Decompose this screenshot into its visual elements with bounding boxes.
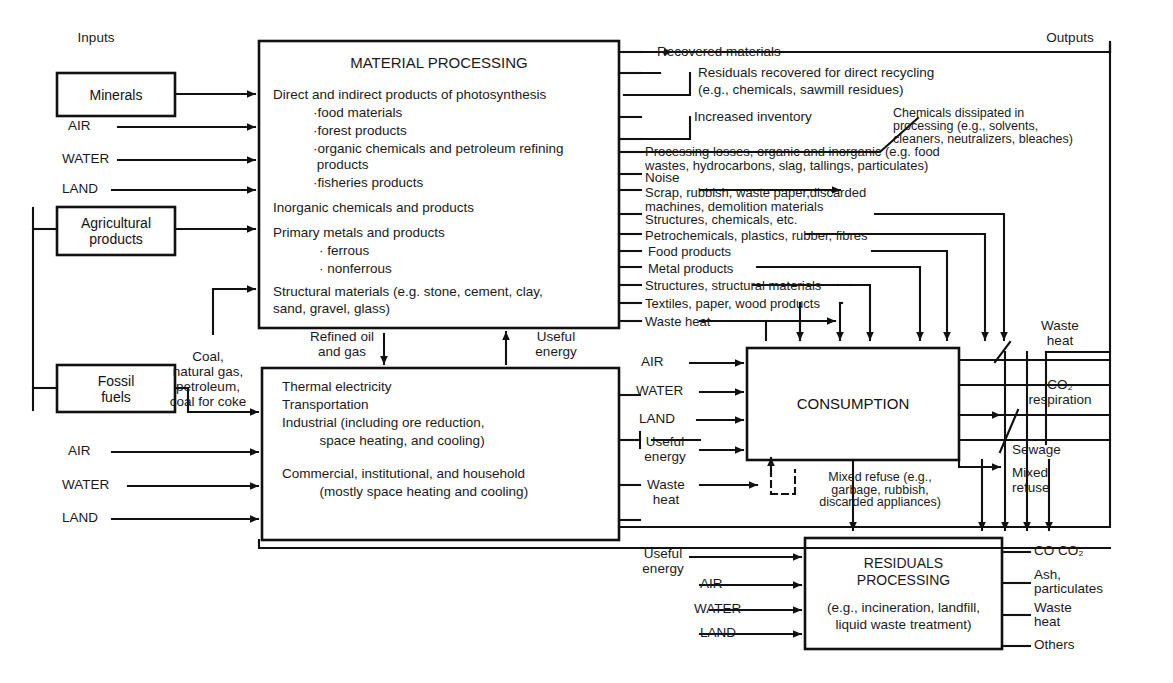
input-land-top: LAND bbox=[62, 182, 98, 197]
consumption-input-land: LAND bbox=[639, 412, 675, 427]
output-food-products: Food products bbox=[648, 245, 731, 259]
consumption-input-air: AIR bbox=[641, 355, 664, 370]
box-minerals[interactable]: Minerals bbox=[57, 73, 175, 116]
outputs-title: Outputs bbox=[1020, 31, 1120, 46]
consumption-output-sewage: Sewage bbox=[1012, 443, 1061, 458]
output-structures-chemicals: Structures, chemicals, etc. bbox=[645, 213, 797, 227]
mp-line-8: · ferrous bbox=[319, 244, 369, 259]
mixed-refuse-note: Mixed refuse (e.g., garbage, rubbish, di… bbox=[800, 471, 960, 509]
output-scrap-1: Scrap, rubbish, waste paper,discarded bbox=[645, 186, 866, 200]
output-increased-inventory: Increased inventory bbox=[694, 110, 812, 125]
consumption-input-useful-energy: Useful energy bbox=[632, 434, 698, 464]
chemicals-dissipated-note: Chemicals dissipated in processing (e.g.… bbox=[893, 107, 1073, 146]
residuals-input-air: AIR bbox=[700, 577, 723, 592]
energy-line-0: Thermal electricity bbox=[282, 380, 392, 395]
energy-line-6: (mostly space heating and cooling) bbox=[282, 485, 528, 500]
residuals-output-waste-heat: Waste heat bbox=[1034, 601, 1072, 629]
output-metal-products: Metal products bbox=[648, 262, 733, 276]
residuals-input-land: LAND bbox=[700, 626, 736, 641]
output-residuals-recycling-1: Residuals recovered for direct recycling bbox=[698, 66, 934, 81]
input-water-bottom: WATER bbox=[62, 478, 109, 493]
useful-energy-up-label: Useful energy bbox=[516, 329, 596, 359]
mp-line-2: ·forest products bbox=[313, 124, 407, 139]
output-processing-losses-1: Processing losses, organic and inorganic… bbox=[645, 145, 940, 159]
mp-line-1: ·food materials bbox=[313, 106, 402, 121]
energy-line-2: Industrial (including ore reduction, bbox=[282, 416, 485, 431]
material-processing-header: MATERIAL PROCESSING bbox=[279, 56, 599, 71]
consumption-input-water: WATER bbox=[636, 384, 683, 399]
consumption-input-waste-heat: Waste heat bbox=[634, 477, 698, 507]
residuals-output-co-co2: CO CO₂ bbox=[1034, 544, 1084, 559]
mp-line-10: Structural materials (e.g. stone, cement… bbox=[273, 285, 543, 300]
residuals-header-2: PROCESSING bbox=[805, 573, 1002, 588]
fuel-transport-label: Coal, natural gas, petroleum, coal for c… bbox=[148, 349, 268, 409]
inputs-title: Inputs bbox=[46, 31, 146, 46]
mp-line-0: Direct and indirect products of photosyn… bbox=[273, 88, 546, 103]
energy-line-1: Transportation bbox=[282, 398, 369, 413]
output-petrochemicals: Petrochemicals, plastics, rubber, fibres bbox=[645, 229, 868, 243]
residuals-header-1: RESIDUALS bbox=[805, 556, 1002, 571]
input-water-top: WATER bbox=[62, 152, 109, 167]
box-agricultural-products[interactable]: Agricultural products bbox=[57, 207, 175, 255]
output-processing-losses-2: wastes, hydrocarbons, slag, tallings, pa… bbox=[645, 159, 928, 173]
output-residuals-recycling-2: (e.g., chemicals, sawmill residues) bbox=[698, 83, 904, 98]
input-air-top: AIR bbox=[68, 119, 91, 134]
residuals-input-water: WATER bbox=[694, 602, 741, 617]
output-structures-structural: Structures, structural materials bbox=[645, 279, 821, 293]
mp-line-9: · nonferrous bbox=[319, 262, 392, 277]
input-land-bottom: LAND bbox=[62, 511, 98, 526]
diagram-canvas: Inputs Outputs Minerals Agricultural pro… bbox=[0, 0, 1173, 683]
mp-line-7: Primary metals and products bbox=[273, 226, 445, 241]
mp-line-5: ·fisheries products bbox=[313, 176, 423, 191]
consumption-output-co2-respiration: CO₂ respiration bbox=[1014, 377, 1106, 407]
residuals-body-2: liquid waste treatment) bbox=[805, 618, 1002, 633]
consumption-output-mixed-refuse: Mixed refuse bbox=[1012, 465, 1050, 495]
residuals-input-useful-energy: Useful energy bbox=[630, 546, 696, 576]
residuals-output-others: Others bbox=[1034, 638, 1075, 653]
energy-line-5: Commercial, institutional, and household bbox=[282, 467, 525, 482]
residuals-body-1: (e.g., incineration, landfill, bbox=[805, 601, 1002, 616]
output-recovered-materials: Recovered materials bbox=[657, 45, 781, 60]
box-consumption[interactable]: CONSUMPTION bbox=[747, 348, 959, 460]
energy-line-3: space heating, and cooling) bbox=[282, 434, 485, 449]
refined-oil-gas-label: Refined oil and gas bbox=[282, 329, 402, 359]
input-air-bottom: AIR bbox=[68, 444, 91, 459]
output-textiles: Textiles, paper, wood products bbox=[645, 297, 820, 311]
mp-line-6: Inorganic chemicals and products bbox=[273, 201, 474, 216]
residuals-output-ash: Ash, particulates bbox=[1034, 568, 1103, 596]
output-waste-heat-mp: Waste heat bbox=[645, 315, 710, 329]
output-noise: Noise bbox=[645, 171, 680, 186]
mp-line-3: ·organic chemicals and petroleum refinin… bbox=[313, 142, 564, 157]
mp-line-4: products bbox=[313, 158, 369, 173]
consumption-output-waste-heat: Waste heat bbox=[1022, 318, 1098, 348]
mp-line-11: sand, gravel, glass) bbox=[273, 302, 390, 317]
